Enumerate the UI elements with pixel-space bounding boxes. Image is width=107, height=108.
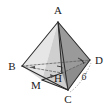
label-M: M bbox=[31, 79, 41, 91]
label-B: B bbox=[8, 60, 15, 72]
geometry-figure: A B D C H M 6 bbox=[0, 0, 107, 108]
label-C: C bbox=[64, 93, 71, 105]
label-length-cd: 6 bbox=[82, 71, 87, 82]
tetrahedron-diagram: A B D C H M 6 bbox=[0, 0, 107, 108]
label-H: H bbox=[54, 72, 62, 84]
label-A: A bbox=[54, 4, 62, 16]
label-D: D bbox=[95, 54, 103, 66]
